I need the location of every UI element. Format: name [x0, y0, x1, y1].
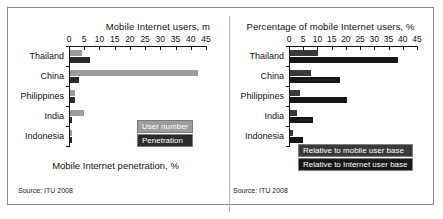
y-tick: [66, 106, 70, 107]
bar-china-series1: [70, 77, 79, 83]
x-tick-label: 0: [67, 34, 72, 44]
x-tick: [389, 46, 390, 50]
x-tick: [176, 46, 177, 50]
category-label-china: China: [260, 71, 284, 81]
bar-thailand-series0: [290, 50, 318, 56]
x-tick-label: 15: [110, 34, 119, 44]
y-tick: [66, 86, 70, 87]
bar-indonesia-series0: [290, 130, 293, 136]
category-label-philippines: Philippines: [240, 91, 284, 101]
bar-philippines-series0: [70, 90, 75, 96]
x-tick: [115, 46, 116, 50]
x-axis-label-left: Mobile Internet penetration, %: [8, 160, 223, 171]
x-tick-label: 20: [125, 34, 134, 44]
x-axis-right: [289, 46, 417, 47]
category-label-indonesia: Indonesia: [25, 131, 64, 141]
bar-india-series0: [290, 110, 297, 116]
figure-frame: Mobile Internet users, m 051015202530354…: [7, 7, 434, 205]
bar-china-series0: [70, 70, 198, 76]
category-label-thailand: Thailand: [29, 51, 64, 61]
x-tick-label: 35: [171, 34, 180, 44]
chart-panel-left: Mobile Internet users, m 051015202530354…: [8, 8, 223, 206]
x-tick-label: 20: [341, 34, 350, 44]
x-tick-label: 15: [327, 34, 336, 44]
y-tick: [286, 146, 290, 147]
x-tick: [99, 46, 100, 50]
x-tick-label: 45: [201, 34, 210, 44]
x-tick: [346, 46, 347, 50]
y-tick: [286, 66, 290, 67]
bar-thailand-series0: [70, 50, 82, 56]
bar-thailand-series1: [70, 57, 90, 63]
plot-area-right: 051015202530354045 ThailandChinaPhilippi…: [289, 46, 417, 146]
category-label-china: China: [40, 71, 64, 81]
y-tick: [286, 106, 290, 107]
legend-item-2: Relative to Internet user base: [298, 158, 413, 171]
x-tick-label: 10: [95, 34, 104, 44]
bar-india-series0: [70, 110, 84, 116]
bar-thailand-series1: [290, 57, 398, 63]
x-tick: [130, 46, 131, 50]
x-tick: [417, 46, 418, 50]
y-tick: [286, 86, 290, 87]
x-tick: [374, 46, 375, 50]
source-note-left: Source: ITU 2008: [18, 187, 73, 194]
x-tick-label: 0: [287, 34, 292, 44]
y-tick: [286, 126, 290, 127]
x-tick-label: 40: [186, 34, 195, 44]
x-tick-label: 25: [140, 34, 149, 44]
x-tick-label: 40: [398, 34, 407, 44]
chart-screenshot: Mobile Internet users, m 051015202530354…: [0, 0, 443, 219]
legend-right: Relative to mobile user baseRelative to …: [298, 144, 413, 172]
y-tick: [66, 66, 70, 67]
x-tick: [332, 46, 333, 50]
bar-china-series0: [290, 70, 311, 76]
bar-china-series1: [290, 77, 340, 83]
y-tick: [66, 126, 70, 127]
y-tick: [66, 46, 70, 47]
category-label-thailand: Thailand: [249, 51, 284, 61]
legend-item-1: Relative to mobile user base: [298, 144, 413, 157]
legend-left: User numberPenetration: [137, 120, 193, 148]
x-tick-label: 10: [313, 34, 322, 44]
legend-item-2: Penetration: [137, 134, 193, 147]
category-label-india: India: [264, 111, 284, 121]
x-axis-left: [69, 46, 206, 47]
bar-indonesia-series1: [290, 137, 303, 143]
x-tick-label: 45: [412, 34, 421, 44]
x-tick: [84, 46, 85, 50]
bar-india-series1: [290, 117, 313, 123]
y-tick: [66, 146, 70, 147]
x-tick-label: 30: [370, 34, 379, 44]
legend-item-1: User number: [137, 120, 193, 133]
bar-india-series1: [70, 117, 72, 123]
x-tick-label: 25: [355, 34, 364, 44]
category-label-philippines: Philippines: [20, 91, 64, 101]
source-note-right: Source: ITU 2008: [233, 187, 288, 194]
bar-indonesia-series0: [70, 130, 72, 136]
x-tick: [403, 46, 404, 50]
bar-philippines-series1: [70, 97, 75, 103]
x-tick: [360, 46, 361, 50]
x-tick: [160, 46, 161, 50]
x-tick-label: 35: [384, 34, 393, 44]
y-tick: [286, 46, 290, 47]
x-tick-label: 30: [156, 34, 165, 44]
bar-philippines-series1: [290, 97, 347, 103]
x-tick: [145, 46, 146, 50]
x-tick: [206, 46, 207, 50]
x-tick-labels-left: 051015202530354045: [69, 34, 206, 45]
x-tick-label: 5: [301, 34, 306, 44]
bar-philippines-series0: [290, 90, 300, 96]
x-tick: [191, 46, 192, 50]
category-label-indonesia: Indonesia: [245, 131, 284, 141]
chart-title-right: Percentage of mobile Internet users, %: [223, 21, 438, 32]
x-tick-labels-right: 051015202530354045: [289, 34, 417, 45]
bar-indonesia-series1: [70, 137, 72, 143]
chart-title-left: Mobile Internet users, m: [8, 21, 223, 32]
x-tick-label: 5: [82, 34, 87, 44]
chart-panel-right: Percentage of mobile Internet users, % 0…: [223, 8, 438, 206]
category-label-india: India: [44, 111, 64, 121]
